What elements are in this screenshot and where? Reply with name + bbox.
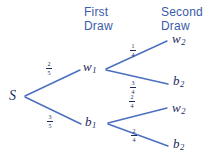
numerator: 2 xyxy=(43,61,55,68)
branch-probability-s-b1: 3 5 xyxy=(44,114,56,129)
leaf-node-b2-lower: b2 xyxy=(173,137,184,154)
branch-b1-w2 xyxy=(108,108,167,123)
branch-probability-s-w1: 2 5 xyxy=(43,61,55,76)
probability-tree-diagram: First Draw Second Draw S w1 b1 w2 b2 w2 … xyxy=(0,0,219,157)
node-root-s-label: S xyxy=(9,88,16,103)
node-root-s: S xyxy=(9,89,16,102)
denominator: 4 xyxy=(126,102,138,109)
leaf-node-w2-lower: w2 xyxy=(172,101,185,118)
leaf-node-w2-upper: w2 xyxy=(172,32,185,49)
branch-probability-w1-b2: 3 4 xyxy=(127,80,139,95)
numerator: 1 xyxy=(127,43,139,50)
leaf-w2-lower-label: w xyxy=(172,100,181,115)
denominator: 5 xyxy=(43,69,55,76)
numerator: 2 xyxy=(126,94,138,101)
node-b1-subscript: 1 xyxy=(92,120,97,130)
leaf-node-b2-upper: b2 xyxy=(173,74,184,91)
header-second-line1: Second xyxy=(161,6,203,20)
denominator: 4 xyxy=(128,136,140,143)
node-w1-label: w xyxy=(83,59,92,74)
node-w1: w1 xyxy=(83,60,96,77)
numerator: 3 xyxy=(44,114,56,121)
denominator: 5 xyxy=(44,122,56,129)
column-header-first-draw: First Draw xyxy=(84,6,113,33)
leaf-b2-upper-label: b xyxy=(173,73,180,88)
numerator: 3 xyxy=(127,80,139,87)
column-header-second-draw: Second Draw xyxy=(161,6,203,33)
leaf-w2-lower-subscript: 2 xyxy=(181,106,186,116)
node-b1: b1 xyxy=(85,115,96,132)
node-b1-label: b xyxy=(85,114,92,129)
branch-probability-b1-w2: 2 4 xyxy=(126,94,138,109)
leaf-w2-upper-label: w xyxy=(172,31,181,46)
branch-probability-w1-w2: 1 4 xyxy=(127,43,139,58)
leaf-b2-lower-subscript: 2 xyxy=(180,142,185,152)
node-w1-subscript: 1 xyxy=(92,65,97,75)
denominator: 4 xyxy=(127,51,139,58)
header-first-line2: Draw xyxy=(84,20,113,34)
header-second-line2: Draw xyxy=(161,20,203,34)
header-first-line1: First xyxy=(84,6,113,20)
leaf-b2-lower-label: b xyxy=(173,136,180,151)
branch-probability-b1-b2: 2 4 xyxy=(128,128,140,143)
leaf-b2-upper-subscript: 2 xyxy=(180,79,185,89)
numerator: 2 xyxy=(128,128,140,135)
leaf-w2-upper-subscript: 2 xyxy=(181,37,186,47)
